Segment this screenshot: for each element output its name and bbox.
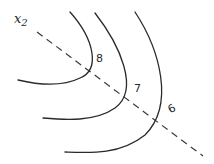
contour-label-7: 7 bbox=[134, 82, 141, 95]
contour-diagram: x2 8 7 6 bbox=[0, 0, 214, 164]
contour-label-8: 8 bbox=[96, 52, 103, 65]
axis-label: x2 bbox=[14, 11, 28, 28]
contour-level-7 bbox=[43, 13, 126, 119]
contour-level-6 bbox=[65, 12, 162, 153]
contour-label-6: 6 bbox=[166, 101, 179, 116]
contour-level-8 bbox=[18, 12, 92, 84]
x2-axis-dashed-line bbox=[37, 32, 203, 156]
